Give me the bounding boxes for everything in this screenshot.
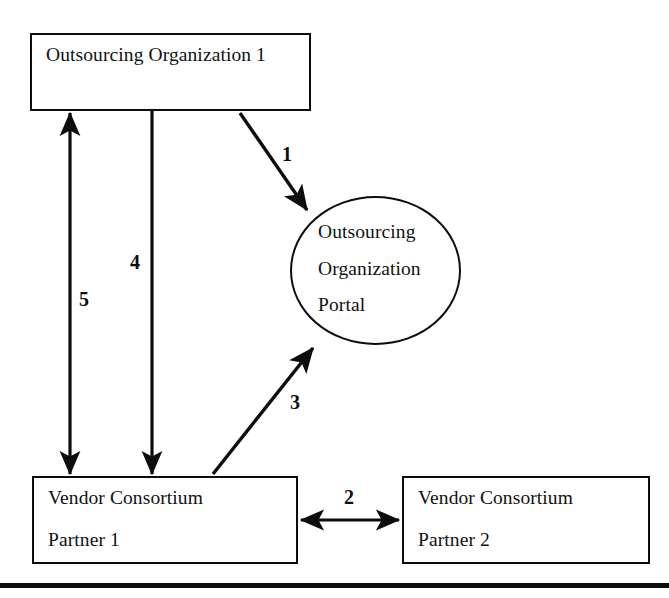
edge-label-4: 4 <box>130 252 140 272</box>
edge-label-1: 1 <box>282 144 292 164</box>
node-vendor-consortium-partner-2[interactable]: Vendor Consortium Partner 2 <box>402 476 650 564</box>
node-partner-1-label-line-1: Vendor Consortium <box>48 488 296 508</box>
edge-label-5: 5 <box>79 289 89 309</box>
node-portal-label-line-2: Organization <box>318 259 459 279</box>
node-vendor-consortium-partner-1[interactable]: Vendor Consortium Partner 1 <box>32 476 298 564</box>
node-outsourcing-organization-1-label: Outsourcing Organization 1 <box>46 45 309 65</box>
edge-label-3: 3 <box>290 392 300 412</box>
node-outsourcing-organization-portal[interactable]: Outsourcing Organization Portal <box>290 196 461 345</box>
node-portal-label-line-3: Portal <box>318 295 459 315</box>
node-portal-label-line-1: Outsourcing <box>318 222 459 242</box>
diagram-root: Outsourcing Organization 1 Outsourcing O… <box>0 0 669 598</box>
footer-divider <box>0 583 669 588</box>
edge-1-line <box>240 113 307 210</box>
node-outsourcing-organization-1[interactable]: Outsourcing Organization 1 <box>30 33 311 111</box>
node-partner-2-label-line-1: Vendor Consortium <box>418 488 648 508</box>
node-partner-1-label-line-2: Partner 1 <box>48 530 296 550</box>
node-partner-2-label-line-2: Partner 2 <box>418 530 648 550</box>
edge-label-2: 2 <box>344 487 354 507</box>
